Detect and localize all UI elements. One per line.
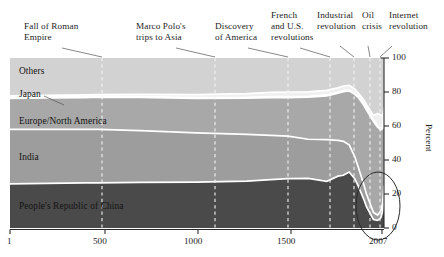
- event-annotation-industrial-revolution: Industrial revolution: [317, 10, 356, 32]
- event-label-line: Industrial: [317, 10, 356, 21]
- leader-line: [176, 48, 215, 57]
- event-annotation-discovery-of-america: Discovery of America: [215, 21, 257, 43]
- event-annotation-oil-crisis: Oil crisis: [362, 10, 382, 32]
- event-annotation-french-and-us-revolutions: French and U.S. revolutions: [271, 10, 313, 43]
- y-tick-0: 0: [392, 222, 397, 232]
- band-label-china: People's Republic of China: [19, 201, 124, 211]
- y-tick-100: 100: [392, 52, 406, 62]
- y-tick-60: 60: [392, 120, 401, 130]
- leader-line: [340, 46, 354, 57]
- leader-line: [248, 48, 288, 57]
- band-label-others: Others: [19, 66, 45, 76]
- band-label-japan: Japan: [19, 89, 41, 99]
- y-tick-20: 20: [392, 188, 401, 198]
- event-annotation-fall-of-roman-empire: Fall of Roman Empire: [24, 21, 78, 43]
- event-annotation-marco-polo: Marco Polo's trips to Asia: [136, 21, 186, 43]
- event-label-line: trips to Asia: [136, 32, 186, 43]
- event-label-line: Fall of Roman: [24, 21, 78, 32]
- event-label-line: crisis: [362, 21, 382, 32]
- band-label-europe-north-america: Europe/North America: [19, 116, 107, 126]
- event-label-line: of America: [215, 32, 257, 43]
- leader-line: [62, 48, 102, 57]
- x-tick-1: 1: [7, 236, 12, 246]
- y-tick-80: 80: [392, 86, 401, 96]
- event-label-line: Internet: [389, 10, 428, 21]
- event-label-line: and U.S.: [271, 21, 313, 32]
- event-label-line: Marco Polo's: [136, 21, 186, 32]
- event-label-line: revolution: [389, 21, 428, 32]
- x-tick-1500: 1500: [277, 236, 295, 246]
- x-tick-500: 500: [93, 236, 107, 246]
- leader-line: [368, 46, 370, 57]
- leader-line: [380, 46, 392, 57]
- event-label-line: Discovery: [215, 21, 257, 32]
- event-label-line: Empire: [24, 32, 78, 43]
- leader-line: [300, 48, 330, 57]
- event-annotation-internet-revolution: Internet revolution: [389, 10, 428, 32]
- y-tick-40: 40: [392, 154, 401, 164]
- band-label-india: India: [19, 152, 39, 162]
- event-label-line: French: [271, 10, 313, 21]
- event-label-line: Oil: [362, 10, 382, 21]
- event-label-line: revolutions: [271, 32, 313, 43]
- x-tick-2007: 2007: [369, 236, 387, 246]
- event-label-line: revolution: [317, 21, 356, 32]
- x-tick-1000: 1000: [184, 236, 202, 246]
- chart-figure: Fall of Roman Empire Marco Polo's trips …: [0, 0, 444, 257]
- y-axis-title: Percent: [424, 124, 434, 152]
